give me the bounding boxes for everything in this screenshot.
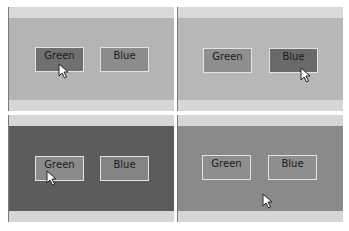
- top-strip: [8, 115, 174, 126]
- bottom-strip: [8, 100, 174, 111]
- top-strip: [177, 115, 343, 126]
- blue-button[interactable]: Blue: [268, 155, 317, 180]
- blue-button[interactable]: Blue: [100, 47, 149, 72]
- mouse-pointer-icon: [58, 63, 70, 79]
- bottom-strip: [8, 211, 174, 222]
- panel-edge: [8, 115, 9, 222]
- top-strip: [177, 7, 343, 18]
- mouse-pointer-icon: [46, 170, 58, 186]
- panel-edge: [177, 115, 178, 222]
- mouse-pointer-icon: [300, 67, 312, 83]
- panel-edge: [177, 7, 178, 111]
- panel-body: [8, 18, 174, 100]
- panel-body: [177, 18, 343, 100]
- panel-bottom-left: Green Blue: [8, 115, 174, 222]
- blue-button[interactable]: Blue: [100, 156, 149, 181]
- panel-body: [8, 126, 174, 211]
- green-button[interactable]: Green: [202, 155, 251, 180]
- bottom-strip: [177, 211, 343, 222]
- green-button[interactable]: Green: [35, 156, 84, 181]
- panel-top-left: Green Blue: [8, 7, 174, 111]
- top-strip: [8, 7, 174, 18]
- panel-bottom-right: Green Blue: [177, 115, 343, 222]
- bottom-strip: [177, 100, 343, 111]
- green-button[interactable]: Green: [203, 48, 252, 73]
- panel-top-right: Green Blue: [177, 7, 343, 111]
- mouse-pointer-icon: [262, 193, 274, 209]
- panel-edge: [8, 7, 9, 111]
